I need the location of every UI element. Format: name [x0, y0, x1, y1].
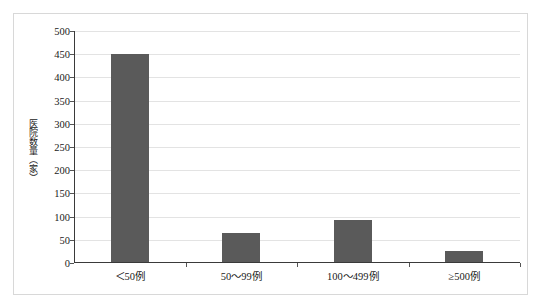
- y-tick-label: 400: [54, 72, 70, 83]
- x-tick-mark: [297, 263, 298, 267]
- x-tick-label: 100～499例: [327, 268, 379, 283]
- y-tick-mark: [70, 263, 74, 264]
- bar: [445, 251, 483, 262]
- x-axis-line: [74, 262, 520, 264]
- bar: [334, 220, 372, 262]
- y-tick-label: 250: [54, 142, 70, 153]
- y-tick-label: 50: [60, 234, 71, 245]
- x-tick-label: ≥500例: [448, 268, 480, 283]
- x-tick-mark: [520, 263, 521, 267]
- y-tick-label: 350: [54, 95, 70, 106]
- y-tick-label: 500: [54, 26, 70, 37]
- y-tick-label: 450: [54, 49, 70, 60]
- x-tick-label: ＜50例: [115, 268, 146, 283]
- chart-figure: 医院数量（家） 050100150200250300350400450500 ＜…: [0, 0, 542, 308]
- bar: [222, 233, 260, 262]
- y-tick-label: 300: [54, 118, 70, 129]
- x-tick-mark: [409, 263, 410, 267]
- x-tick-label: 50～99例: [221, 268, 262, 283]
- x-axis-tick-labels: ＜50例50～99例100～499例≥500例: [74, 268, 520, 288]
- y-tick-label: 100: [54, 211, 70, 222]
- y-axis-tick-labels: 050100150200250300350400450500: [40, 24, 70, 270]
- bar: [111, 54, 149, 262]
- y-tick-label: 200: [54, 165, 70, 176]
- plot-area: [74, 31, 520, 263]
- x-tick-mark: [186, 263, 187, 267]
- y-tick-label: 150: [54, 188, 70, 199]
- bars-layer: [74, 31, 520, 263]
